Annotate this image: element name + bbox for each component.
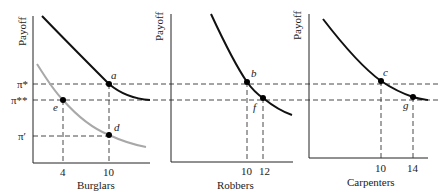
point-d-label: d (114, 121, 120, 133)
robbers-tick-12: 12 (259, 165, 270, 177)
burglars-y-label: Payoff (16, 17, 28, 46)
point-g (410, 94, 416, 100)
robbers-y-label: Payoff (153, 12, 165, 41)
burglars-panel: Payoff π* π** π′ a e d 4 10 Burglars (11, 16, 150, 191)
pi-star-label: π* (17, 78, 28, 90)
point-a (106, 81, 112, 87)
carpenters-y-label: Payoff (291, 11, 303, 40)
payoff-chart: Payoff π* π** π′ a e d 4 10 Burglars Pay… (0, 0, 439, 195)
robbers-panel: Payoff b f 10 12 Robbers (153, 12, 293, 191)
point-c (378, 78, 384, 84)
point-f (260, 95, 266, 101)
point-f-label: f (253, 101, 258, 113)
point-d (106, 132, 112, 138)
pi-prime-label: π′ (18, 130, 26, 142)
burglars-original-curve (42, 16, 150, 100)
point-c-label: c (383, 66, 388, 78)
carpenters-tick-10: 10 (375, 162, 387, 174)
burglars-tick-4: 4 (60, 166, 66, 178)
point-b (244, 79, 250, 85)
burglars-x-label: Burglars (77, 179, 115, 191)
point-g-label: g (403, 99, 409, 111)
carpenters-x-label: Carpenters (347, 176, 395, 188)
carpenters-panel: Payoff c g 10 14 Carpenters (291, 11, 428, 188)
robbers-x-label: Robbers (217, 179, 254, 191)
pi-double-star-label: π** (11, 94, 28, 106)
point-e-label: e (53, 101, 58, 113)
point-a-label: a (111, 69, 117, 81)
carpenters-tick-14: 14 (407, 162, 419, 174)
carpenters-curve (323, 19, 428, 100)
burglars-tick-10: 10 (103, 166, 115, 178)
point-b-label: b (251, 67, 257, 79)
robbers-tick-10: 10 (241, 165, 253, 177)
point-e (60, 97, 66, 103)
